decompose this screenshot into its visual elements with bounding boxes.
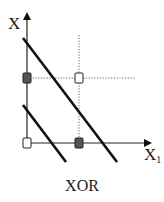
point-open-origin xyxy=(23,138,31,148)
x-axis-label-subscript: 1 xyxy=(156,154,161,165)
xor-plot xyxy=(0,0,164,202)
point-filled-x2 xyxy=(23,73,31,83)
y-axis-label: X xyxy=(8,15,20,32)
x-axis-label-text: X xyxy=(144,145,156,164)
xor-diagram: X X1 XOR xyxy=(0,0,164,202)
decision-line-lower xyxy=(23,105,66,162)
figure-caption: XOR xyxy=(0,178,164,194)
point-open-both xyxy=(75,73,83,83)
x-axis-label: X1 xyxy=(144,146,161,165)
point-filled-x1 xyxy=(75,138,83,148)
